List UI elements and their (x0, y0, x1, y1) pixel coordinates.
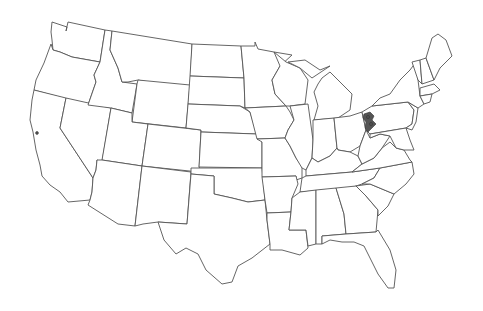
state-arizona (88, 160, 142, 226)
state-colorado (142, 124, 201, 172)
highlight-sf-bay (36, 132, 39, 135)
state-new-mexico (135, 166, 191, 226)
us-states-map (0, 0, 483, 311)
state-wyoming (132, 80, 190, 128)
state-north-dakota (190, 44, 244, 78)
state-south-dakota (188, 76, 245, 108)
state-kansas (199, 132, 262, 168)
state-florida (322, 230, 396, 288)
